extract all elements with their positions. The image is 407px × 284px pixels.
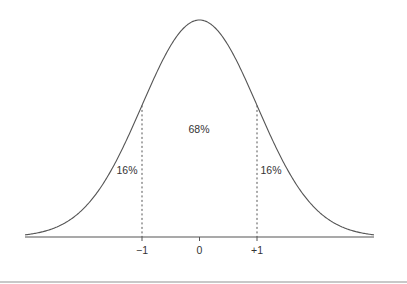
label-right-16: 16% — [260, 164, 281, 176]
tick-label-minus1: −1 — [136, 244, 148, 256]
bottom-divider — [0, 281, 407, 283]
bell-curve-chart: 68% 16% 16% −1 0 +1 — [0, 0, 407, 284]
label-center-68: 68% — [188, 123, 209, 135]
tick-label-0: 0 — [197, 244, 203, 256]
tick-label-plus1: +1 — [251, 244, 263, 256]
label-left-16: 16% — [116, 164, 137, 176]
